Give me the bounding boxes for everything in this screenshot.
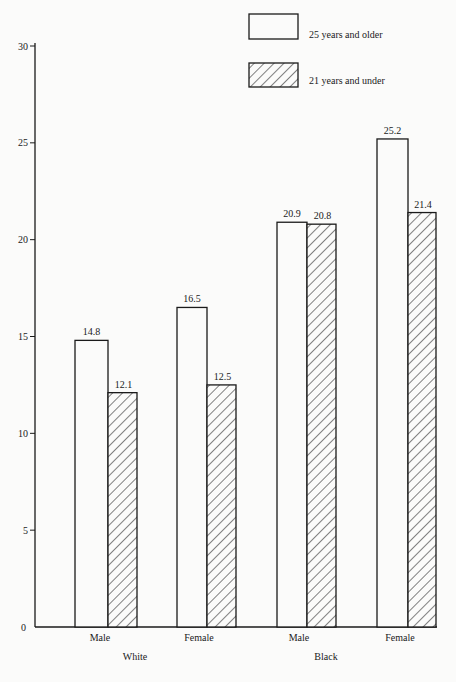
bar-21-and-under <box>307 224 336 627</box>
bar-25-and-older <box>277 222 307 627</box>
y-tick-label: 25 <box>18 137 28 148</box>
legend-label: 25 years and older <box>309 29 383 40</box>
y-tick-label: 5 <box>23 525 28 536</box>
value-label: 12.1 <box>115 379 133 390</box>
value-label: 21.4 <box>414 199 432 210</box>
value-label: 20.8 <box>314 210 332 221</box>
legend-swatch-hatched <box>249 63 298 87</box>
x-group-label: Black <box>314 651 337 662</box>
x-category-label: Female <box>385 632 415 643</box>
bar-25-and-older <box>75 340 108 627</box>
bar-21-and-under <box>207 385 236 627</box>
bar-25-and-older <box>177 307 207 627</box>
bar-25-and-older <box>377 139 408 627</box>
x-group-label: White <box>123 651 148 662</box>
value-label: 20.9 <box>283 208 301 219</box>
y-tick-label: 20 <box>18 234 28 245</box>
legend-label: 21 years and under <box>309 75 385 86</box>
x-category-label: Male <box>289 632 310 643</box>
value-label: 12.5 <box>214 371 232 382</box>
bar-21-and-under <box>108 393 137 627</box>
y-tick-label: 0 <box>21 622 26 633</box>
legend: 25 years and older21 years and under <box>249 14 385 87</box>
bar-chart: 051015202530 14.812.1Male16.512.5Female2… <box>0 0 456 682</box>
value-label: 25.2 <box>384 125 402 136</box>
y-tick-label: 15 <box>18 331 28 342</box>
value-label: 16.5 <box>183 293 201 304</box>
value-label: 14.8 <box>83 326 101 337</box>
legend-swatch-plain <box>249 14 298 39</box>
y-tick-label: 10 <box>18 428 28 439</box>
x-category-label: Female <box>184 632 214 643</box>
bar-21-and-under <box>408 213 436 627</box>
x-category-label: Male <box>90 632 111 643</box>
y-tick-label: 30 <box>18 41 28 52</box>
